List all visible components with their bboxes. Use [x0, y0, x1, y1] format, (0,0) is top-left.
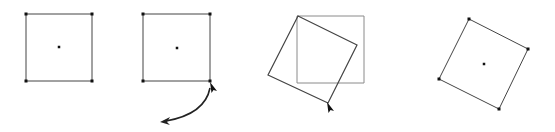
rotated-square-outline: [268, 16, 357, 103]
corner-handle: [438, 78, 441, 81]
step-2-grab-corner: [142, 13, 218, 126]
corner-handle: [142, 13, 145, 16]
corner-handle: [209, 13, 212, 16]
center-point: [483, 63, 486, 66]
mouse-cursor-icon: [327, 102, 334, 113]
corner-handle: [91, 13, 94, 16]
corner-handle: [142, 80, 145, 83]
mouse-cursor-icon: [210, 82, 217, 93]
corner-handle: [498, 108, 501, 111]
corner-handle: [209, 80, 212, 83]
step-1-selected-square: [25, 13, 94, 83]
diagram-canvas: [0, 0, 555, 132]
corner-handle: [91, 80, 94, 83]
center-point: [58, 46, 61, 49]
corner-handle: [25, 80, 28, 83]
corner-handle: [468, 18, 471, 21]
corner-handle: [527, 48, 530, 51]
step-4-rotated-result: [438, 18, 530, 111]
rotation-arrow-curve: [166, 88, 210, 121]
corner-handle: [25, 13, 28, 16]
rotation-diagram: [0, 0, 555, 132]
step-3-dragging: [268, 16, 364, 113]
center-point: [176, 47, 179, 50]
ghost-square-outline: [297, 16, 364, 83]
